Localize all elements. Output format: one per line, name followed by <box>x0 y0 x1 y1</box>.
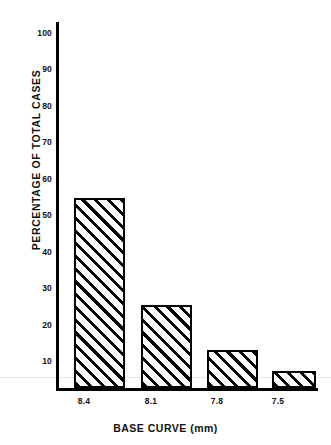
y-tick-label-40: 40 <box>22 248 52 257</box>
y-tick-label-80: 80 <box>22 102 52 111</box>
y-tick-label-20: 20 <box>22 321 52 330</box>
y-axis-tick-labels: 100 90 80 70 60 50 40 30 20 10 <box>24 0 52 445</box>
bar-7.8 <box>207 350 258 388</box>
bar-8.1 <box>141 305 192 388</box>
plot-area <box>56 22 318 391</box>
bar-7.5 <box>272 371 316 388</box>
y-tick-label-30: 30 <box>22 284 52 293</box>
x-tick-label-2: 7.8 <box>193 396 241 406</box>
y-tick-label-100: 100 <box>22 29 52 38</box>
y-axis-line <box>56 22 59 389</box>
y-tick-label-10: 10 <box>22 357 52 366</box>
y-tick-label-70: 70 <box>22 138 52 147</box>
y-tick-label-50: 50 <box>22 211 52 220</box>
bar-chart-figure: PERCENTAGE OF TOTAL CASES 100 90 80 70 6… <box>0 0 331 445</box>
x-tick-label-0: 8.4 <box>60 396 108 406</box>
x-tick-label-1: 8.1 <box>127 396 175 406</box>
x-axis-title: BASE CURVE (mm) <box>0 422 331 434</box>
y-tick-label-60: 60 <box>22 175 52 184</box>
x-tick-label-3: 7.5 <box>256 396 300 406</box>
y-tick-label-90: 90 <box>22 65 52 74</box>
x-axis-line <box>56 388 318 391</box>
bar-8.4 <box>74 198 125 388</box>
